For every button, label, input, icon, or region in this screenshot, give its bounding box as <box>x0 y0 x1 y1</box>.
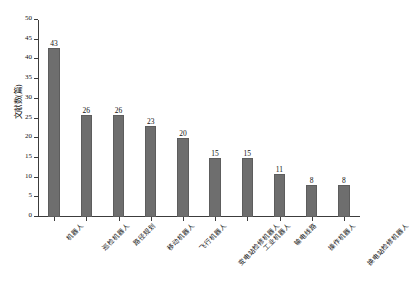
x-axis-tick <box>183 217 184 221</box>
x-axis-tick <box>54 217 55 221</box>
y-axis-tick: 30 <box>34 98 38 99</box>
x-axis-tick <box>119 217 120 221</box>
bar[interactable]: 43 <box>48 48 60 217</box>
x-axis-tick <box>247 217 248 221</box>
y-axis-tick: 20 <box>34 137 38 138</box>
y-axis-tick-label: 35 <box>25 73 32 82</box>
bar[interactable]: 15 <box>242 158 254 217</box>
bar-value-label: 8 <box>342 176 346 185</box>
y-axis-tick-label: 20 <box>25 132 32 141</box>
y-axis-title: 文献数(篇) <box>12 57 23 147</box>
y-axis-tick: 45 <box>34 39 38 40</box>
y-axis-tick: 35 <box>34 78 38 79</box>
y-axis-tick-label: 15 <box>25 152 32 161</box>
x-axis-category-label: 操作机器人 <box>327 222 357 252</box>
x-axis-category-label: 移动机器人 <box>166 222 196 252</box>
y-axis-tick-label: 0 <box>29 211 33 220</box>
x-axis-tick <box>151 217 152 221</box>
x-axis-tick <box>215 217 216 221</box>
y-axis-tick: 10 <box>34 177 38 178</box>
x-axis-category-label: 换电站检修机器人 <box>365 222 410 267</box>
y-axis-tick-label: 40 <box>25 53 32 62</box>
bar[interactable]: 8 <box>306 185 318 217</box>
x-axis-category-label: 输电线路 <box>293 222 318 247</box>
bar-value-label: 26 <box>83 106 91 115</box>
x-axis-category-label: 巡检机器人 <box>102 222 132 252</box>
bar[interactable]: 8 <box>338 185 350 217</box>
x-axis-category-label: 机器人 <box>65 222 86 243</box>
bar-value-label: 43 <box>50 39 58 48</box>
bar[interactable]: 26 <box>113 115 125 217</box>
y-axis-tick-label: 25 <box>25 113 32 122</box>
plot-area: 05101520253035404550 432626232015151188 <box>38 20 360 217</box>
bar-value-label: 26 <box>115 106 123 115</box>
y-axis-tick-label: 10 <box>25 172 32 181</box>
y-axis-line <box>38 20 39 217</box>
x-axis-category-label: 路径规划 <box>132 222 157 247</box>
bar[interactable]: 23 <box>145 126 157 217</box>
y-axis-tick: 50 <box>34 19 38 20</box>
bar[interactable]: 26 <box>81 115 93 217</box>
y-axis-tick: 25 <box>34 118 38 119</box>
y-axis-tick-label: 50 <box>25 14 32 23</box>
x-axis-tick <box>312 217 313 221</box>
bar-value-label: 15 <box>244 149 252 158</box>
bar-value-label: 20 <box>179 129 187 138</box>
bar-value-label: 23 <box>147 117 155 126</box>
y-axis-tick-label: 5 <box>29 191 33 200</box>
y-axis-tick-label: 45 <box>25 34 32 43</box>
y-axis-tick: 15 <box>34 157 38 158</box>
x-axis-category-label: 飞行机器人 <box>198 222 228 252</box>
bar[interactable]: 15 <box>209 158 221 217</box>
x-axis-tick <box>86 217 87 221</box>
y-axis-tick: 5 <box>34 196 38 197</box>
bar-value-label: 11 <box>276 165 283 174</box>
bar[interactable]: 20 <box>177 138 189 217</box>
bar[interactable]: 11 <box>274 174 286 217</box>
y-axis-tick: 40 <box>34 58 38 59</box>
x-axis-tick <box>344 217 345 221</box>
y-axis-tick-label: 30 <box>25 93 32 102</box>
y-axis-tick: 0 <box>34 216 38 217</box>
bar-value-label: 15 <box>211 149 219 158</box>
bar-value-label: 8 <box>310 176 314 185</box>
x-axis-tick <box>280 217 281 221</box>
